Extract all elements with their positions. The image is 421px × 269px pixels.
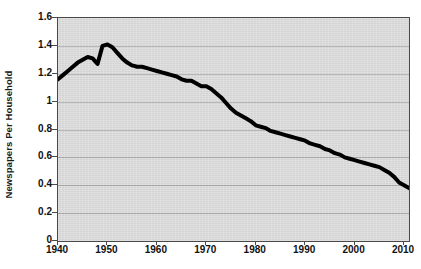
y-axis-tick-label: 1.4	[12, 40, 52, 50]
x-axis-tick-mark	[106, 241, 107, 245]
y-axis-tick-mark	[52, 156, 57, 157]
y-axis-tick-mark	[52, 101, 57, 102]
y-axis-tick-label: 0.2	[12, 207, 52, 217]
x-axis-tick-label: 2000	[331, 244, 377, 256]
y-axis-tick-label: 0.8	[12, 124, 52, 134]
x-axis-tick-label: 1990	[281, 244, 327, 256]
x-axis-tick-mark	[57, 241, 58, 245]
line-chart: Newspapers Per Household 00.20.40.60.811…	[0, 0, 421, 269]
plot-area	[57, 17, 410, 242]
x-axis-tick-mark	[304, 241, 305, 245]
x-axis-tick-mark	[205, 241, 206, 245]
x-axis-tick-label: 1970	[182, 244, 228, 256]
x-axis-tick-mark	[255, 241, 256, 245]
y-axis-tick-mark	[52, 129, 57, 130]
x-axis-tick-label: 1960	[133, 244, 179, 256]
y-axis-tick-mark	[52, 45, 57, 46]
y-axis-tick-labels: 00.20.40.60.811.21.41.6	[8, 0, 52, 269]
x-axis-tick-mark	[403, 241, 404, 245]
x-axis-tick-label: 1940	[34, 244, 80, 256]
y-axis-tick-label: 0.4	[12, 179, 52, 189]
x-axis-tick-mark	[156, 241, 157, 245]
y-axis-tick-mark	[52, 17, 57, 18]
x-axis-tick-labels: 19401950196019701980199020002010	[0, 244, 421, 260]
series-polyline	[58, 44, 409, 188]
y-axis-tick-label: 1	[12, 96, 52, 106]
x-axis-tick-mark	[354, 241, 355, 245]
y-axis-tick-label: 1.2	[12, 68, 52, 78]
y-axis-tick-mark	[52, 184, 57, 185]
y-axis-tick-mark	[52, 212, 57, 213]
series-line-newspapers-per-household	[58, 18, 409, 241]
y-axis-tick-mark	[52, 73, 57, 74]
x-axis-tick-label: 1950	[83, 244, 129, 256]
x-axis-tick-label: 2010	[380, 244, 421, 256]
y-axis-tick-label: 0.6	[12, 151, 52, 161]
y-axis-tick-label: 1.6	[12, 12, 52, 22]
x-axis-tick-label: 1980	[232, 244, 278, 256]
